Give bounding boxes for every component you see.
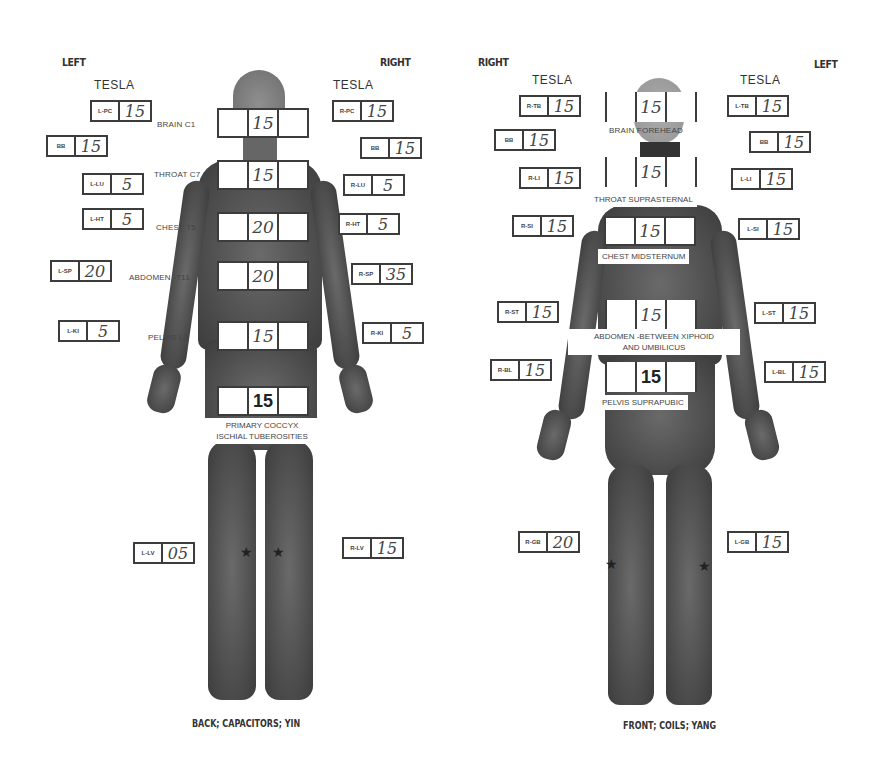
region-cell-left [217, 386, 249, 416]
point-value: 5 [368, 215, 398, 233]
region-value: 15 [247, 386, 279, 416]
point-box-r-ht[interactable]: R-HT5 [338, 213, 400, 235]
point-code: L-SI [740, 220, 768, 238]
region-box-chest-midsternum[interactable]: 15 [604, 216, 696, 246]
point-box-r-st[interactable]: R-ST15 [497, 301, 559, 323]
region-box-pelvis-l2[interactable]: 15 [217, 321, 309, 351]
region-label-abdomen: ABDOMEN -BETWEEN XIPHOID AND UMBILICUS [568, 329, 740, 355]
region-cell-left [605, 92, 637, 122]
back-side-label-left: LEFT [62, 56, 85, 69]
region-value: 15 [635, 300, 667, 330]
point-box-l-pc[interactable]: L-PC15 [90, 100, 152, 122]
region-cell-left [605, 362, 637, 392]
region-value: 15 [635, 92, 667, 122]
region-cell-right [277, 108, 309, 138]
point-box-l-bl[interactable]: L-BL15 [764, 361, 826, 383]
point-box-l-gb[interactable]: L-GB15 [727, 531, 789, 553]
point-box-r-lv[interactable]: R-LV15 [342, 537, 404, 559]
point-box-l-ht[interactable]: L-HT5 [82, 208, 144, 230]
region-box-pelvis-suprapubic[interactable]: 15 [605, 362, 697, 392]
region-box-brain-forehead[interactable]: 15 [605, 92, 697, 122]
region-value: 15 [247, 108, 279, 138]
region-label-line2: ISCHIAL TUBEROSITIES [207, 431, 317, 442]
point-code: BB [362, 139, 390, 157]
point-code: L-SP [52, 262, 80, 280]
region-box-abdomen[interactable]: 15 [605, 300, 697, 330]
back-tesla-label-right: TESLA [333, 78, 374, 92]
point-box-l-ki[interactable]: L-KI5 [58, 320, 120, 342]
region-cell-left [217, 261, 249, 291]
point-code: R-BL [492, 361, 520, 379]
point-code: L-BL [766, 363, 794, 381]
region-box-abdomen-t11[interactable]: 20 [217, 261, 309, 291]
region-label-line1: ABDOMEN -BETWEEN XIPHOID [572, 331, 736, 342]
region-label-brain-forehead: BRAIN FOREHEAD [609, 126, 683, 135]
region-box-primary-coccyx[interactable]: 15 [217, 386, 309, 416]
back-hand-right [337, 362, 376, 415]
point-value: 15 [757, 533, 787, 551]
point-code: L-ST [756, 304, 784, 322]
region-box-throat-c7[interactable]: 15 [217, 160, 309, 190]
point-value: 20 [80, 262, 110, 280]
front-tesla-label-left: TESLA [532, 73, 573, 87]
back-side-label-right: RIGHT [380, 56, 410, 69]
point-box-l-lv[interactable]: L-LV05 [133, 542, 195, 564]
region-box-chest-t5[interactable]: 20 [217, 212, 309, 242]
point-box-l-lu[interactable]: L-LU5 [82, 173, 144, 195]
point-value: 15 [768, 220, 798, 238]
point-box-r-lu[interactable]: R-LU5 [343, 174, 405, 196]
point-box-bb[interactable]: BB15 [360, 137, 422, 159]
point-value: 5 [392, 324, 422, 342]
point-code: BB [48, 137, 76, 155]
point-value: 15 [794, 363, 824, 381]
region-cell-left [217, 321, 249, 351]
point-box-bb[interactable]: BB15 [494, 129, 556, 151]
point-code: R-KI [364, 324, 392, 342]
point-code: R-PC [334, 102, 362, 120]
point-box-r-si[interactable]: R-SI15 [512, 215, 574, 237]
point-value: 35 [381, 265, 411, 283]
region-cell-left [217, 108, 249, 138]
region-value: 20 [247, 261, 279, 291]
region-value: 15 [635, 157, 667, 187]
front-leg-left [666, 465, 712, 705]
point-value: 5 [373, 176, 403, 194]
point-box-r-ki[interactable]: R-KI5 [362, 322, 424, 344]
point-box-l-si[interactable]: L-SI15 [738, 218, 800, 240]
point-box-l-st[interactable]: L-ST15 [754, 302, 816, 324]
point-box-r-sp[interactable]: R-SP35 [351, 263, 413, 285]
point-code: BB [751, 133, 779, 151]
point-box-r-gb[interactable]: R-GB20 [518, 531, 580, 553]
back-leg-right [265, 440, 313, 700]
back-hand-left [145, 362, 184, 415]
point-box-l-li[interactable]: L-LI15 [731, 168, 793, 190]
point-box-bb[interactable]: BB15 [46, 135, 108, 157]
point-box-r-tb[interactable]: R-TB15 [519, 95, 581, 117]
point-value: 15 [542, 217, 572, 235]
point-box-bb[interactable]: BB15 [749, 131, 811, 153]
point-box-r-pc[interactable]: R-PC15 [332, 100, 394, 122]
region-cell-left [217, 160, 249, 190]
region-label-throat-suprasternal: THROAT SUPRASTERNAL [590, 192, 697, 207]
front-hand-left [742, 407, 781, 462]
region-box-brain-c1[interactable]: 15 [217, 108, 309, 138]
region-cell-right [277, 212, 309, 242]
region-cell-right [665, 300, 697, 330]
point-value: 5 [112, 210, 142, 228]
region-cell-right [665, 157, 697, 187]
point-box-r-bl[interactable]: R-BL15 [490, 359, 552, 381]
region-label-abdomen-t11: ABDOMEN -T11 [129, 273, 190, 282]
region-box-throat-suprasternal[interactable]: 15 [605, 157, 697, 187]
point-box-l-sp[interactable]: L-SP20 [50, 260, 112, 282]
point-value: 15 [784, 304, 814, 322]
front-side-label-left: RIGHT [478, 56, 508, 69]
point-code: L-LU [84, 175, 112, 193]
point-code: R-LU [345, 176, 373, 194]
point-code: R-HT [340, 215, 368, 233]
point-code: BB [496, 131, 524, 149]
point-box-l-tb[interactable]: L-TB15 [727, 95, 789, 117]
point-code: L-LI [733, 170, 761, 188]
point-value: 15 [779, 133, 809, 151]
point-box-r-li[interactable]: R-LI15 [519, 167, 581, 189]
point-value: 20 [548, 533, 578, 551]
